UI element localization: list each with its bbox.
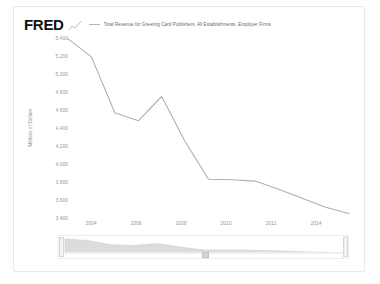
x-axis-ticks: 2004 2006 2008 2010 2012 2014 <box>14 220 366 232</box>
fred-chart-card: FRED Total Revenue for Greeting Card Pub… <box>13 6 365 272</box>
x-tick: 2004 <box>85 220 96 226</box>
x-tick: 2006 <box>130 220 141 226</box>
range-handle-left[interactable] <box>59 237 64 257</box>
x-tick: 2010 <box>220 220 231 226</box>
x-tick: 2012 <box>265 220 276 226</box>
series-line <box>14 7 366 273</box>
range-grip[interactable] <box>202 252 209 258</box>
range-handle-right[interactable] <box>343 237 348 257</box>
x-tick: 2008 <box>175 220 186 226</box>
range-navigator[interactable] <box>58 235 349 259</box>
x-tick: 2014 <box>310 220 321 226</box>
plot-area: Millions of Dollars 5,400 5,200 5,000 4,… <box>14 7 366 273</box>
